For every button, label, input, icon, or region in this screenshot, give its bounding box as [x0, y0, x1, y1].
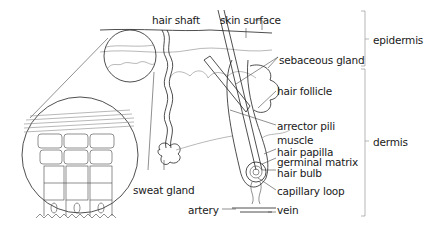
label-germinal-matrix: germinal matrix [277, 157, 358, 168]
sweat-gland-coil [158, 143, 180, 164]
hair-bulb [246, 162, 266, 182]
label-vein: vein [277, 205, 298, 216]
skin-illustration [0, 0, 433, 231]
sweat-duct [162, 30, 168, 148]
dermis-bracket [361, 69, 369, 216]
label-hair-follicle: hair follicle [277, 86, 332, 97]
label-dermis: dermis [373, 137, 408, 148]
label-capillary-loop: capillary loop [277, 186, 345, 197]
label-hair-bulb: hair bulb [277, 168, 322, 179]
magnify-circle [104, 30, 156, 82]
label-skin-surface: skin surface [220, 15, 281, 26]
label-epidermis: epidermis [373, 35, 423, 46]
skin-diagram: hair shaft skin surface sebaceous gland … [0, 0, 433, 231]
label-muscle: muscle [277, 135, 313, 146]
label-artery: artery [188, 205, 219, 216]
label-sebaceous-gland: sebaceous gland [279, 55, 365, 66]
label-sweat-gland: sweat gland [133, 185, 195, 196]
label-arrector-pili: arrector pili [277, 121, 335, 132]
blood-vessels [232, 208, 276, 212]
label-hair-shaft: hair shaft [152, 15, 200, 26]
